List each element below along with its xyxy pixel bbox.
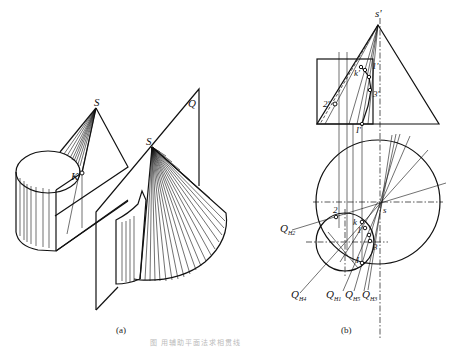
svg-text:QH3: QH3 [362, 288, 377, 302]
svg-text:QH1: QH1 [326, 288, 341, 302]
label-I-top: I [355, 255, 360, 265]
figure-canvas: S K Q S (a) [0, 0, 458, 349]
caption-a: (a) [116, 325, 126, 335]
svg-text:QH2: QH2 [280, 222, 295, 236]
trace-label-qh3: QH3 [362, 288, 377, 302]
label-q: Q [188, 97, 196, 109]
trace-label-qh1: QH1 [326, 288, 341, 302]
label-2-prime: 2' [323, 99, 331, 109]
label-s-prime: s' [375, 7, 382, 19]
cylinder-left [16, 151, 128, 251]
caption-b: (b) [341, 325, 352, 335]
label-I-prime: I' [355, 125, 362, 135]
label-s-top: s [383, 205, 387, 215]
label-3-top: 3 [372, 242, 378, 252]
cone-left [55, 108, 128, 216]
figure-caption: 图 用辅助平面法求相贯线 [150, 337, 360, 347]
label-k-a: K [70, 170, 79, 182]
label-3-prime: 3' [372, 89, 381, 99]
trace-label-qh5: QH5 [345, 288, 360, 302]
panel-b: s' k' 1' 2' 3' I' 2 s [280, 7, 446, 338]
point-k-a [80, 171, 84, 175]
trace-label-qh2: QH2 [280, 222, 295, 236]
label-s-right: S [146, 135, 152, 147]
top-view [292, 134, 446, 293]
svg-text:QH4: QH4 [291, 288, 306, 302]
label-2-top: 2 [333, 205, 338, 215]
svg-text:QH5: QH5 [345, 288, 360, 302]
panel-a: S K Q S (a) [16, 89, 227, 335]
label-s-left: S [94, 96, 100, 108]
point-2-front [333, 102, 337, 106]
cone-right [134, 147, 227, 281]
label-k-prime: k' [354, 68, 361, 78]
trace-label-qh4: QH4 [291, 288, 306, 302]
label-1-top: 1 [357, 225, 362, 235]
label-1-prime: 1' [372, 61, 380, 71]
